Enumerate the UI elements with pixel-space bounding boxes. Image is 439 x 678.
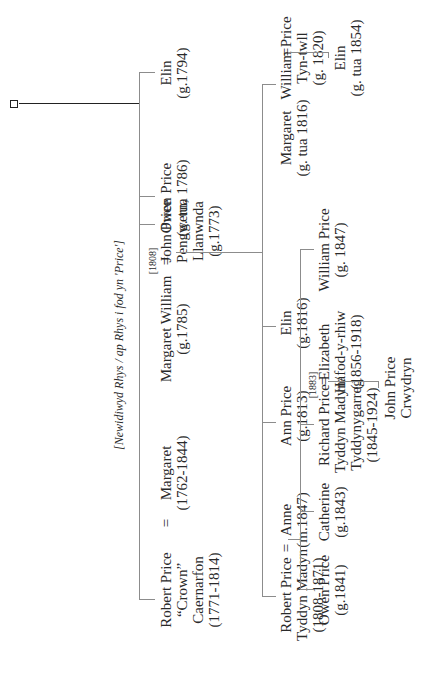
marriage-year-1808: [1808] <box>148 248 158 275</box>
name-change-note: [Newidiwyd Rhys / ap Rhys i fod yn 'Pric… <box>112 240 127 450</box>
gen2-tick-ann <box>262 422 276 423</box>
person-margaret-william: Margaret William (g.1785) <box>158 276 190 383</box>
person-owen-price-1786: Owen Price (g. tua 1786) <box>158 159 190 236</box>
person-ann-price-1813: Ann Price (g.1813) <box>278 386 310 446</box>
person-margaret-1762: Margaret (1762-1844) <box>158 436 190 511</box>
robert-anne-descent <box>288 539 300 540</box>
gen1-sibling-line <box>139 72 140 600</box>
gen3-tick-catherine <box>300 511 314 512</box>
richard-elizabeth-descent <box>328 381 378 382</box>
gen2-tick-robert <box>262 596 276 597</box>
marriage-symbol: = <box>158 257 174 265</box>
person-robert-price-crown: Robert Price “Crown” Caernarfon (1771-18… <box>158 552 222 627</box>
person-catherine-1843: Catherine (g.1843) <box>316 483 348 541</box>
person-john-price-crwydryn: John Price Crwydryn <box>382 357 414 420</box>
trunk-line <box>19 103 140 105</box>
gen1-tick-elin <box>139 72 155 73</box>
gen1-tick-john <box>139 224 155 225</box>
margaret-william-child-link <box>328 52 329 58</box>
family-tree: [Newidiwyd Rhys / ap Rhys i fod yn 'Pric… <box>0 0 439 678</box>
gen3-sibling-line <box>300 249 301 590</box>
gen1-tick-owen <box>139 196 155 197</box>
person-elin-1816: Elin (g.1816) <box>278 297 310 348</box>
gen2-tick-margaret <box>262 84 276 85</box>
gen3-tick-owen <box>300 589 314 590</box>
person-margaret-1816: Margaret (g. tua 1816) <box>278 99 310 176</box>
person-owen-price-1841: Owen Price (g.1841) <box>316 555 348 625</box>
gen2-tick-elin <box>262 326 276 327</box>
root-marker-icon <box>10 100 18 108</box>
gen2-sibling-line <box>262 85 263 597</box>
john-marriage-descent <box>176 252 262 253</box>
marriage-symbol: = <box>158 519 174 527</box>
person-william-price-tyn-twll: William Price Tyn-twll (g. 1820) <box>278 16 326 99</box>
gen3-tick-william <box>300 249 314 250</box>
margaret-william-descent <box>288 52 328 53</box>
gen3-tick-richard <box>300 424 314 425</box>
gen1-tick-robert <box>139 599 155 600</box>
person-william-price-1847: William Price (g. 1847) <box>316 208 348 291</box>
person-elin-1854: Elin (g. tua 1854) <box>332 19 364 96</box>
richard-elizabeth-child-link <box>378 381 379 388</box>
person-elin-1794: Elin (g.1794) <box>158 47 190 98</box>
